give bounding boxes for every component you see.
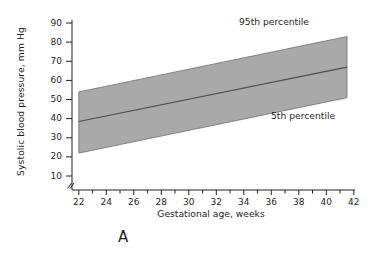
- y-tick-label-10: 10: [38, 172, 62, 181]
- x-tick-label-24: 24: [94, 198, 118, 207]
- y-tick-label-90: 90: [38, 19, 62, 28]
- y-axis-break-icon: [68, 183, 75, 189]
- x-tick-label-32: 32: [204, 198, 228, 207]
- x-tick-label-28: 28: [149, 198, 173, 207]
- x-tick-label-22: 22: [67, 198, 91, 207]
- y-tick-label-20: 20: [38, 152, 62, 161]
- y-tick-label-50: 50: [38, 95, 62, 104]
- y-tick-label-70: 70: [38, 57, 62, 66]
- figure-panel: Systolic blood pressure, mm Hg: [0, 0, 381, 255]
- x-axis-title: Gestational age, weeks: [72, 208, 350, 219]
- annotation-5th-percentile: 5th percentile: [271, 110, 335, 121]
- annotation-95th-percentile: 95th percentile: [239, 16, 309, 27]
- x-tick-label-38: 38: [287, 198, 311, 207]
- x-tick-label-34: 34: [232, 198, 256, 207]
- y-tick-label-30: 30: [38, 133, 62, 142]
- x-tick-label-42: 42: [342, 198, 366, 207]
- x-tick-label-30: 30: [177, 198, 201, 207]
- y-tick-label-40: 40: [38, 114, 62, 123]
- panel-letter: A: [118, 228, 128, 246]
- x-tick-label-40: 40: [314, 198, 338, 207]
- y-tick-label-60: 60: [38, 76, 62, 85]
- x-tick-label-36: 36: [259, 198, 283, 207]
- y-tick-label-80: 80: [38, 38, 62, 47]
- y-axis-ticks: [66, 23, 72, 176]
- x-tick-label-26: 26: [122, 198, 146, 207]
